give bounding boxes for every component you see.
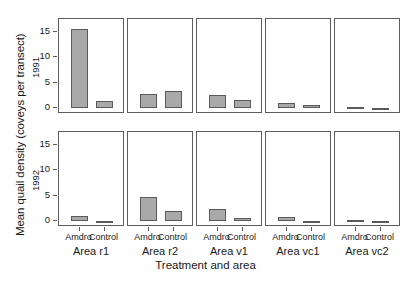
bar — [234, 100, 251, 108]
x-tick-mark — [380, 227, 381, 231]
bar — [71, 216, 88, 221]
panel-title: Area vc2 — [334, 245, 400, 257]
bar — [372, 108, 389, 110]
chart-panel — [196, 18, 262, 113]
panel-plot-area — [197, 132, 261, 225]
bar — [347, 220, 364, 222]
panel-plot-area — [335, 19, 399, 112]
bar — [140, 94, 157, 108]
panel-plot-area — [59, 132, 123, 225]
quail-density-trellis-chart: Mean quail density (coveys per transect)… — [0, 0, 411, 281]
bar — [71, 29, 88, 108]
chart-panel — [127, 18, 193, 113]
y-tick-mark — [53, 144, 57, 145]
x-tick-mark — [104, 227, 105, 231]
y-tick-mark — [53, 195, 57, 196]
panel-plot-area — [266, 132, 330, 225]
y-tick-label: 5 — [28, 77, 50, 87]
panel-plot-area — [128, 19, 192, 112]
panel-title: Area r1 — [58, 245, 124, 257]
x-tick-mark — [311, 227, 312, 231]
y-tick-mark — [53, 169, 57, 170]
y-tick-mark — [53, 82, 57, 83]
panel-plot-area — [128, 132, 192, 225]
x-tick-mark — [79, 227, 80, 231]
chart-panel — [265, 131, 331, 226]
bar — [140, 197, 157, 221]
chart-panel — [334, 18, 400, 113]
y-tick-mark — [53, 107, 57, 108]
x-tick-mark — [217, 227, 218, 231]
bar — [209, 95, 226, 108]
bar — [372, 221, 389, 223]
x-tick-label-control: Control — [350, 232, 410, 242]
bar — [347, 107, 364, 109]
bar — [278, 217, 295, 221]
panel-title: Area vc1 — [265, 245, 331, 257]
panel-title: Area r2 — [127, 245, 193, 257]
panel-plot-area — [197, 19, 261, 112]
y-tick-label: 0 — [28, 102, 50, 112]
chart-panel — [196, 131, 262, 226]
y-tick-label: 10 — [28, 51, 50, 61]
x-tick-mark — [242, 227, 243, 231]
x-tick-mark — [173, 227, 174, 231]
chart-panel — [127, 131, 193, 226]
chart-panel — [334, 131, 400, 226]
panel-plot-area — [266, 19, 330, 112]
panel-title: Area v1 — [196, 245, 262, 257]
panel-plot-area — [59, 19, 123, 112]
y-tick-mark — [53, 56, 57, 57]
panel-plot-area — [335, 132, 399, 225]
y-tick-mark — [53, 31, 57, 32]
y-tick-label: 15 — [28, 26, 50, 36]
x-tick-mark — [148, 227, 149, 231]
y-axis-title: Mean quail density (coveys per transect) — [14, 34, 26, 236]
y-tick-label: 0 — [28, 215, 50, 225]
y-tick-mark — [53, 220, 57, 221]
bar — [278, 103, 295, 108]
bar — [96, 221, 113, 223]
chart-panel — [58, 131, 124, 226]
y-tick-label: 15 — [28, 139, 50, 149]
bar — [303, 105, 320, 108]
x-axis-title: Treatment and area — [0, 259, 411, 271]
y-tick-label: 5 — [28, 190, 50, 200]
bar — [165, 91, 182, 108]
y-tick-label: 10 — [28, 164, 50, 174]
bar — [303, 221, 320, 223]
x-tick-mark — [355, 227, 356, 231]
bar — [96, 101, 113, 108]
y-axis-title-container: Mean quail density (coveys per transect) — [0, 0, 18, 240]
bar — [165, 211, 182, 221]
x-tick-mark — [286, 227, 287, 231]
chart-panel — [265, 18, 331, 113]
bar — [234, 218, 251, 221]
bar — [209, 209, 226, 221]
chart-panel — [58, 18, 124, 113]
